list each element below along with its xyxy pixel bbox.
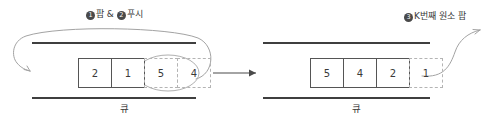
bullet-three: 3 — [404, 13, 413, 22]
queue-cell: 1 — [409, 58, 443, 88]
queue-cell: 1 — [111, 58, 145, 88]
step-label-pop-push: 1팝 & 2푸시 — [86, 8, 143, 20]
right-queue-caption: 큐 — [326, 101, 386, 115]
transition-arrow-head — [249, 70, 256, 77]
bullet-two: 2 — [117, 11, 126, 20]
queue-cell: 4 — [343, 58, 377, 88]
step-label-kth-text: K번째 원소 팝 — [414, 11, 466, 21]
pop-push-loop-arrowhead — [24, 66, 30, 71]
diagram-canvas: 1팝 & 2푸시 2 1 5 4 큐 3K번째 원소 팝 5 4 2 1 큐 — [0, 0, 501, 123]
right-queue-cells: 5 4 2 1 — [310, 58, 442, 88]
queue-cell: 4 — [177, 58, 211, 88]
left-queue-cells: 2 1 5 4 — [78, 58, 210, 88]
queue-cell: 5 — [310, 58, 344, 88]
queue-cell: 5 — [144, 58, 178, 88]
step-label-push-text: 푸시 — [127, 9, 143, 19]
queue-cell: 2 — [376, 58, 410, 88]
queue-cell: 2 — [78, 58, 112, 88]
step-label-pop-text: 팝 & — [96, 9, 114, 19]
bullet-one: 1 — [86, 11, 95, 20]
left-queue-caption: 큐 — [94, 101, 154, 115]
step-label-kth-pop: 3K번째 원소 팝 — [404, 10, 466, 22]
